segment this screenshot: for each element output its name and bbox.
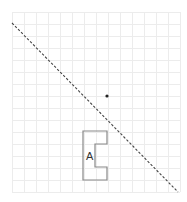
center-point xyxy=(105,94,108,97)
reflection-diagram: A xyxy=(0,0,187,202)
shape-label: A xyxy=(86,150,94,162)
grid xyxy=(12,12,181,193)
